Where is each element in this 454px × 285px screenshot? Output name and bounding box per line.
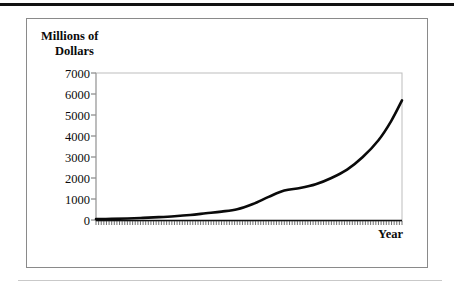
- top-horizontal-rule: [0, 3, 454, 6]
- y-tick-label: 1000: [65, 193, 90, 207]
- x-axis-title: Year: [378, 227, 403, 242]
- plot-region: 7000 6000 5000 4000 3000 2000 1000 0: [27, 65, 429, 225]
- y-tick-label: 2000: [65, 172, 90, 186]
- y-axis-tick-marks: [91, 73, 96, 220]
- y-tick-label: 6000: [65, 88, 90, 102]
- bottom-horizontal-rule: [18, 280, 442, 281]
- plot-area-background: [96, 73, 402, 221]
- y-axis-title-line2: Dollars: [41, 44, 98, 59]
- y-axis-tick-labels: 7000 6000 5000 4000 3000 2000 1000 0: [65, 67, 90, 225]
- y-tick-label: 7000: [65, 67, 90, 81]
- y-tick-label: 3000: [65, 151, 90, 165]
- y-tick-label: 5000: [65, 109, 90, 123]
- figure-frame: Millions of Dollars 7000 6000 5000 4000 …: [26, 18, 428, 268]
- line-chart-svg: 7000 6000 5000 4000 3000 2000 1000 0: [27, 65, 429, 225]
- y-tick-label: 0: [84, 214, 90, 225]
- y-axis-title: Millions of Dollars: [41, 29, 98, 59]
- x-axis-minor-ticks: [96, 221, 402, 225]
- y-tick-label: 4000: [65, 130, 90, 144]
- y-axis-title-line1: Millions of: [41, 29, 98, 43]
